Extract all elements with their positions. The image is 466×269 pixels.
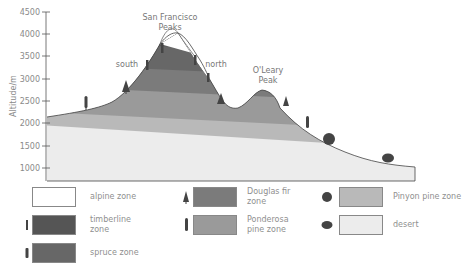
spruce-icon	[26, 248, 29, 258]
bristlecone-icon	[26, 220, 28, 230]
fir-tree-icon	[183, 191, 189, 204]
shrub-icon	[322, 221, 333, 229]
ponderosa-icon	[185, 218, 188, 231]
pinyon-icon	[322, 192, 332, 202]
